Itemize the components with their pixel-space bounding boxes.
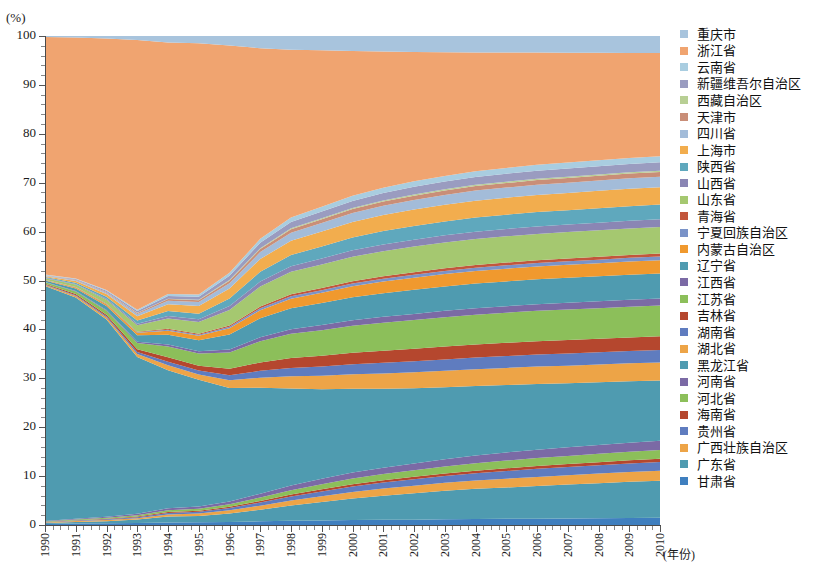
y-tick-minor bbox=[41, 212, 45, 213]
y-tick-minor bbox=[41, 163, 45, 164]
legend-item[interactable]: 吉林省 bbox=[680, 307, 818, 324]
legend-label: 陕西省 bbox=[697, 160, 736, 173]
legend-item[interactable]: 山东省 bbox=[680, 191, 818, 208]
legend-item[interactable]: 天津市 bbox=[680, 109, 818, 126]
legend-item[interactable]: 浙江省 bbox=[680, 43, 818, 60]
x-tick-label: 1992 bbox=[100, 533, 115, 557]
legend-swatch-icon bbox=[680, 63, 688, 71]
legend-item[interactable]: 山西省 bbox=[680, 175, 818, 192]
legend-swatch-icon bbox=[680, 328, 688, 336]
legend-item[interactable]: 内蒙古自治区 bbox=[680, 241, 818, 258]
x-tick bbox=[76, 526, 77, 532]
legend-swatch-icon bbox=[680, 96, 688, 104]
legend-item[interactable]: 重庆市 bbox=[680, 26, 818, 43]
legend-label: 江西省 bbox=[697, 276, 736, 289]
x-tick-label: 2000 bbox=[346, 533, 361, 557]
x-tick-minor bbox=[376, 526, 377, 530]
x-tick-minor bbox=[299, 526, 300, 530]
y-tick bbox=[39, 525, 45, 526]
stacked-area-plot bbox=[45, 36, 660, 525]
legend-item[interactable]: 海南省 bbox=[680, 407, 818, 424]
legend-swatch-icon bbox=[680, 47, 688, 55]
legend-item[interactable]: 陕西省 bbox=[680, 158, 818, 175]
x-tick bbox=[476, 526, 477, 532]
legend-label: 天津市 bbox=[697, 111, 736, 124]
x-tick bbox=[107, 526, 108, 532]
legend-swatch-icon bbox=[680, 196, 688, 204]
x-tick-label: 1993 bbox=[130, 533, 145, 557]
legend-item[interactable]: 贵州省 bbox=[680, 423, 818, 440]
x-tick-label: 2006 bbox=[530, 533, 545, 557]
legend-swatch-icon bbox=[680, 179, 688, 187]
x-tick-label: 2004 bbox=[469, 533, 484, 557]
y-tick bbox=[39, 476, 45, 477]
legend-item[interactable]: 河南省 bbox=[680, 373, 818, 390]
y-tick bbox=[39, 232, 45, 233]
x-tick-label: 1998 bbox=[284, 533, 299, 557]
legend-label: 内蒙古自治区 bbox=[697, 243, 775, 256]
y-tick-minor bbox=[41, 192, 45, 193]
legend-swatch-icon bbox=[680, 477, 688, 485]
x-tick-minor bbox=[606, 526, 607, 530]
x-tick-minor bbox=[422, 526, 423, 530]
legend-item[interactable]: 新疆维吾尔自治区 bbox=[680, 76, 818, 93]
legend-item[interactable]: 江苏省 bbox=[680, 291, 818, 308]
x-tick-minor bbox=[483, 526, 484, 530]
legend-item[interactable]: 甘肃省 bbox=[680, 473, 818, 490]
legend-item[interactable]: 青海省 bbox=[680, 208, 818, 225]
x-tick-minor bbox=[268, 526, 269, 530]
legend-item[interactable]: 江西省 bbox=[680, 274, 818, 291]
x-tick-minor bbox=[560, 526, 561, 530]
y-tick-minor bbox=[41, 222, 45, 223]
y-tick-label: 50 bbox=[4, 272, 36, 288]
y-tick-minor bbox=[41, 359, 45, 360]
x-tick-minor bbox=[622, 526, 623, 530]
x-tick-minor bbox=[637, 526, 638, 530]
y-tick-minor bbox=[41, 290, 45, 291]
x-tick bbox=[599, 526, 600, 532]
legend-item[interactable]: 上海市 bbox=[680, 142, 818, 159]
legend-item[interactable]: 河北省 bbox=[680, 390, 818, 407]
y-tick-label: 90 bbox=[4, 76, 36, 92]
y-tick-label: 30 bbox=[4, 369, 36, 385]
legend-swatch-icon bbox=[680, 278, 688, 286]
legend-item[interactable]: 湖南省 bbox=[680, 324, 818, 341]
y-tick-minor bbox=[41, 261, 45, 262]
x-tick bbox=[260, 526, 261, 532]
legend-item[interactable]: 宁夏回族自治区 bbox=[680, 225, 818, 242]
legend-label: 重庆市 bbox=[697, 28, 736, 41]
legend-item[interactable]: 四川省 bbox=[680, 125, 818, 142]
legend-item[interactable]: 黑龙江省 bbox=[680, 357, 818, 374]
x-tick-minor bbox=[122, 526, 123, 530]
x-tick bbox=[199, 526, 200, 532]
y-tick bbox=[39, 183, 45, 184]
x-tick-minor bbox=[452, 526, 453, 530]
y-tick-label: 80 bbox=[4, 125, 36, 141]
legend-label: 新疆维吾尔自治区 bbox=[697, 77, 801, 90]
x-tick-minor bbox=[360, 526, 361, 530]
legend-item[interactable]: 辽宁省 bbox=[680, 258, 818, 275]
x-tick-minor bbox=[491, 526, 492, 530]
y-tick-minor bbox=[41, 369, 45, 370]
x-tick bbox=[168, 526, 169, 532]
x-tick-minor bbox=[206, 526, 207, 530]
y-axis-line bbox=[45, 36, 46, 526]
legend-item[interactable]: 广西壮族自治区 bbox=[680, 440, 818, 457]
legend-item[interactable]: 西藏自治区 bbox=[680, 92, 818, 109]
y-tick-minor bbox=[41, 457, 45, 458]
legend-item[interactable]: 湖北省 bbox=[680, 340, 818, 357]
x-tick-minor bbox=[522, 526, 523, 530]
legend-swatch-icon bbox=[680, 262, 688, 270]
legend-item[interactable]: 云南省 bbox=[680, 59, 818, 76]
y-tick-minor bbox=[41, 124, 45, 125]
x-tick-minor bbox=[306, 526, 307, 530]
legend-swatch-icon bbox=[680, 229, 688, 237]
x-tick-label: 1991 bbox=[69, 533, 84, 557]
x-tick-minor bbox=[468, 526, 469, 530]
y-tick-minor bbox=[41, 95, 45, 96]
legend-item[interactable]: 广东省 bbox=[680, 456, 818, 473]
y-tick-label: 60 bbox=[4, 223, 36, 239]
x-tick-minor bbox=[237, 526, 238, 530]
y-tick-label: 10 bbox=[4, 467, 36, 483]
y-tick-minor bbox=[41, 153, 45, 154]
